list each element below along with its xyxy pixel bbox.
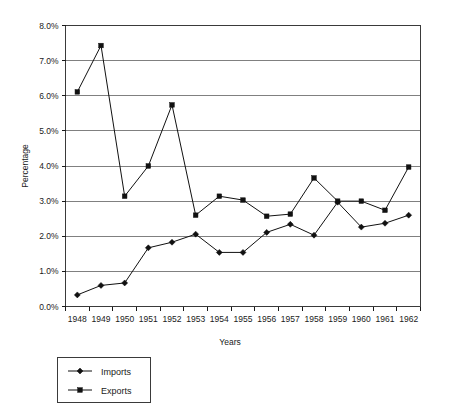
x-axis-tick-label: 1959 [328, 314, 347, 324]
chart-container: 0.0%1.0%2.0%3.0%4.0%5.0%6.0%7.0%8.0% 194… [0, 0, 461, 415]
x-axis-tick-label: 1962 [399, 314, 418, 324]
data-point-exports [406, 165, 411, 170]
x-axis-tick-label: 1952 [163, 314, 182, 324]
y-axis-tick-label: 3.0% [39, 196, 59, 206]
x-axis-tick-label: 1956 [257, 314, 276, 324]
y-axis-tick-labels: 0.0%1.0%2.0%3.0%4.0%5.0%6.0%7.0%8.0% [39, 21, 59, 312]
legend-label-exports: Exports [101, 386, 132, 396]
data-point-exports [383, 208, 388, 213]
y-axis-tick-label: 1.0% [39, 266, 59, 276]
y-axis-tick-label: 4.0% [39, 161, 59, 171]
y-axis-tick-label: 5.0% [39, 126, 59, 136]
data-point-exports [193, 213, 198, 218]
data-point-exports [264, 214, 269, 219]
data-point-exports [288, 212, 293, 217]
y-axis-tick-label: 0.0% [39, 302, 59, 312]
data-point-exports [122, 194, 127, 199]
chart-svg: 0.0%1.0%2.0%3.0%4.0%5.0%6.0%7.0%8.0% 194… [0, 0, 461, 415]
x-axis-tick-label: 1951 [139, 314, 158, 324]
data-point-exports [217, 194, 222, 199]
x-axis-title: Years [219, 337, 240, 347]
x-axis-tick-labels: 1948194919501951195219531954195519561957… [68, 314, 419, 324]
x-axis-tick-label: 1948 [68, 314, 87, 324]
legend-label-imports: Imports [101, 367, 132, 377]
data-point-exports [170, 103, 175, 108]
chart-background [0, 0, 461, 415]
data-point-exports [359, 199, 364, 204]
x-axis-tick-label: 1960 [352, 314, 371, 324]
x-axis-tick-label: 1957 [281, 314, 300, 324]
x-axis-tick-label: 1953 [186, 314, 205, 324]
data-point-exports [312, 176, 317, 181]
x-axis-tick-label: 1950 [115, 314, 134, 324]
y-axis-tick-label: 6.0% [39, 91, 59, 101]
x-axis-tick-label: 1961 [376, 314, 395, 324]
y-axis-tick-label: 8.0% [39, 21, 59, 31]
x-axis-tick-label: 1949 [92, 314, 111, 324]
data-point-exports [146, 164, 151, 169]
chart-legend: ImportsExports [58, 358, 151, 403]
x-axis-tick-label: 1958 [305, 314, 324, 324]
legend-marker-exports [78, 388, 83, 393]
data-point-exports [75, 90, 80, 95]
legend-border [58, 358, 151, 403]
y-axis-title: Percentage [20, 144, 30, 188]
data-point-exports [335, 199, 340, 204]
data-point-exports [241, 198, 246, 203]
y-axis-tick-label: 2.0% [39, 231, 59, 241]
data-point-exports [99, 43, 104, 48]
x-axis-tick-label: 1954 [210, 314, 229, 324]
y-axis-tick-label: 7.0% [39, 56, 59, 66]
x-axis-tick-label: 1955 [234, 314, 253, 324]
